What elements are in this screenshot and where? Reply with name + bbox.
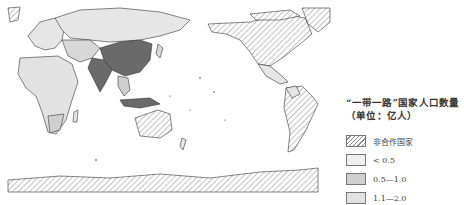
- region-central-america: [258, 64, 288, 84]
- legend-label: 非合作国家: [373, 136, 413, 147]
- legend-item-05-10: 0.5—1.0: [346, 172, 464, 186]
- swatch-icon: [346, 192, 366, 204]
- swatch-icon: [346, 173, 366, 185]
- region-japan: [156, 44, 163, 58]
- region-new-zealand: [180, 138, 186, 150]
- region-greenland-west: [8, 7, 20, 22]
- region-australia: [135, 110, 172, 138]
- legend-item-lt05: < 0.5: [346, 153, 464, 167]
- region-north-america: [208, 14, 312, 66]
- region-madagascar: [73, 110, 78, 122]
- legend: “一带一路”国家人口数量 （单位：亿人） 非合作国家 < 0.5 0.5—1.0…: [346, 96, 464, 205]
- legend-unit: （单位：亿人）: [346, 109, 464, 122]
- swatch-icon: [346, 154, 366, 166]
- legend-label: 1.1—2.0: [373, 194, 406, 203]
- region-africa-south: [48, 114, 64, 133]
- legend-item-11-20: 1.1—2.0: [346, 191, 464, 205]
- region-africa: [18, 56, 78, 134]
- region-indonesia: [120, 98, 160, 108]
- legend-items: 非合作国家 < 0.5 0.5—1.0 1.1—2.0 > 2.0: [346, 134, 464, 205]
- region-southeast-asia: [118, 76, 130, 96]
- region-south-america: [284, 86, 318, 152]
- region-russia: [55, 8, 190, 42]
- region-antarctica: [8, 168, 318, 192]
- legend-item-non-cooperating: 非合作国家: [346, 134, 464, 148]
- legend-label: 0.5—1.0: [373, 175, 406, 184]
- hatch-swatch-icon: [346, 135, 366, 147]
- legend-label: < 0.5: [373, 156, 395, 165]
- legend-title: “一带一路”国家人口数量: [346, 96, 464, 109]
